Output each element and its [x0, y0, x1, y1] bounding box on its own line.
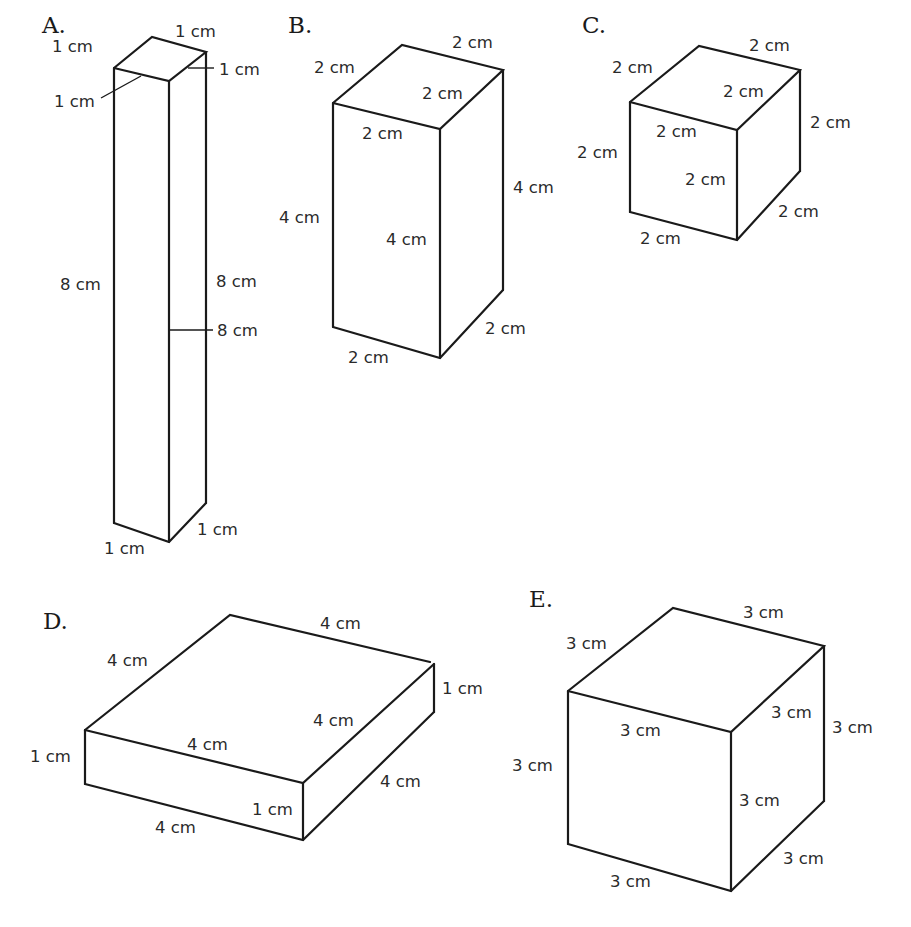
figure-label-c: C.	[582, 12, 606, 38]
edge-label: 3 cm	[743, 603, 784, 622]
edge-label: 8 cm	[217, 321, 258, 340]
edge-label: 2 cm	[348, 348, 389, 367]
edge-label: 4 cm	[279, 208, 320, 227]
figure-b: B. 2 cm 2 cm 2 cm 2 cm 4 cm 4 cm 4 cm 2 …	[279, 12, 554, 367]
edge-label: 2 cm	[685, 170, 726, 189]
edge-label: 1 cm	[219, 60, 260, 79]
figure-label-e: E.	[529, 586, 553, 612]
figure-label-b: B.	[288, 12, 312, 38]
edge-label: 2 cm	[778, 202, 819, 221]
prism-c	[630, 46, 800, 240]
edge-label: 8 cm	[60, 275, 101, 294]
edge-label: 4 cm	[386, 230, 427, 249]
edge-label: 2 cm	[452, 33, 493, 52]
figure-e: E. 3 cm 3 cm 3 cm 3 cm 3 cm 3 cm 3 cm 3 …	[512, 586, 873, 891]
rectangular-prisms-diagram: A. 1 cm 1 cm 1 cm 1 cm 8 cm 8 cm 8 cm 1 …	[0, 0, 911, 927]
edge-label: 3 cm	[771, 703, 812, 722]
prism-b	[333, 45, 503, 358]
edge-label: 3 cm	[832, 718, 873, 737]
edge-label: 2 cm	[422, 84, 463, 103]
edge-label: 3 cm	[566, 634, 607, 653]
edge-label: 3 cm	[610, 872, 651, 891]
prism-c-body	[630, 46, 800, 240]
edge-label: 4 cm	[320, 614, 361, 633]
edge-label: 4 cm	[155, 818, 196, 837]
edge-label: 3 cm	[620, 721, 661, 740]
figure-d: D. 4 cm 4 cm 4 cm 4 cm 1 cm 1 cm 1 cm 4 …	[30, 608, 483, 840]
edge-label: 4 cm	[107, 651, 148, 670]
edge-label: 1 cm	[197, 520, 238, 539]
edge-label: 4 cm	[380, 772, 421, 791]
prism-a	[114, 37, 206, 542]
edge-label: 2 cm	[640, 229, 681, 248]
edge-label: 2 cm	[656, 122, 697, 141]
edge-label: 2 cm	[749, 36, 790, 55]
edge-label: 4 cm	[513, 178, 554, 197]
edge-label: 3 cm	[512, 756, 553, 775]
edge-label: 4 cm	[187, 735, 228, 754]
edge-label: 2 cm	[485, 319, 526, 338]
edge-label: 1 cm	[442, 679, 483, 698]
edge-label: 1 cm	[175, 22, 216, 41]
edge-label: 8 cm	[216, 272, 257, 291]
prism-a-body	[114, 37, 206, 542]
edge-label: 1 cm	[30, 747, 71, 766]
edge-label: 3 cm	[783, 849, 824, 868]
prism-b-body	[333, 45, 503, 358]
edge-label: 2 cm	[362, 124, 403, 143]
edge-label: 1 cm	[52, 37, 93, 56]
edge-label: 2 cm	[577, 143, 618, 162]
edge-label: 4 cm	[313, 711, 354, 730]
figure-label-d: D.	[43, 608, 68, 634]
edge-label: 2 cm	[810, 113, 851, 132]
edge-label: 1 cm	[54, 92, 95, 111]
edge-label: 1 cm	[252, 800, 293, 819]
edge-label: 2 cm	[314, 58, 355, 77]
figure-label-a: A.	[41, 12, 66, 38]
edge-label: 2 cm	[612, 58, 653, 77]
figure-a: A. 1 cm 1 cm 1 cm 1 cm 8 cm 8 cm 8 cm 1 …	[41, 12, 260, 558]
figure-c: C. 2 cm 2 cm 2 cm 2 cm 2 cm 2 cm 2 cm 2 …	[577, 12, 851, 248]
edge-label: 2 cm	[723, 82, 764, 101]
edge-label: 3 cm	[739, 791, 780, 810]
edge-label: 1 cm	[104, 539, 145, 558]
